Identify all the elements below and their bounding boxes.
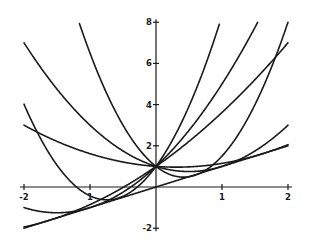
x-tick-label: 2 [285, 192, 291, 202]
chart-plot: -2112 8642-2 [0, 0, 311, 250]
x-tick-label: -2 [19, 192, 29, 202]
y-tick-label: -2 [143, 223, 153, 233]
parabola-3 [79, 22, 288, 177]
y-tick-label: 8 [146, 17, 152, 27]
x-tick-label: 1 [87, 192, 93, 202]
y-tick-label: 4 [146, 100, 152, 110]
parabola-1 [24, 24, 219, 200]
y-tick-label: 2 [146, 141, 152, 151]
x-tick-label: 1 [219, 192, 225, 202]
y-tick-label: 6 [146, 58, 152, 68]
